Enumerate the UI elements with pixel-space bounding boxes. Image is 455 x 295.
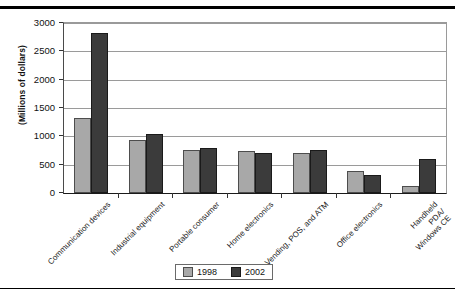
y-tick-label-0: 0 bbox=[15, 187, 55, 198]
bar-1998 bbox=[238, 151, 255, 193]
bar-1998 bbox=[293, 153, 310, 193]
bar-2002 bbox=[310, 150, 327, 193]
bar-1998 bbox=[74, 118, 91, 193]
x-tick-mark bbox=[227, 193, 228, 198]
bar-2002 bbox=[419, 159, 436, 193]
y-tick-label-2500: 2500 bbox=[15, 45, 55, 56]
bar-1998 bbox=[129, 140, 146, 193]
y-tick-label-3000: 3000 bbox=[15, 17, 55, 28]
y-tick-label-1000: 1000 bbox=[15, 130, 55, 141]
x-tick-mark bbox=[281, 193, 282, 198]
x-tick-mark bbox=[172, 193, 173, 198]
bar-group bbox=[291, 23, 329, 193]
legend-swatch-2002 bbox=[231, 267, 241, 277]
y-tick-mark-0 bbox=[59, 192, 63, 193]
bar-group bbox=[400, 23, 438, 193]
bar-group bbox=[345, 23, 383, 193]
bar-2002 bbox=[200, 148, 217, 193]
legend-label-2002: 2002 bbox=[245, 267, 265, 277]
bar-2002 bbox=[91, 33, 108, 193]
bar-2002 bbox=[255, 153, 272, 193]
y-tick-label-2000: 2000 bbox=[15, 73, 55, 84]
y-tick-mark-3000 bbox=[59, 22, 63, 23]
chart-figure: (Millions of dollars) 050010001500200025… bbox=[0, 0, 455, 295]
y-tick-mark-2500 bbox=[59, 50, 63, 51]
chart-legend: 1998 2002 bbox=[175, 264, 273, 280]
x-tick-mark bbox=[390, 193, 391, 198]
y-tick-label-500: 500 bbox=[15, 158, 55, 169]
bar-group bbox=[236, 23, 274, 193]
top-rule bbox=[0, 6, 455, 9]
bar-group bbox=[181, 23, 219, 193]
bar-2002 bbox=[146, 134, 163, 193]
legend-entry-1998: 1998 bbox=[183, 267, 217, 277]
y-tick-mark-500 bbox=[59, 164, 63, 165]
legend-entry-2002: 2002 bbox=[231, 267, 265, 277]
legend-swatch-1998 bbox=[183, 267, 193, 277]
bottom-rule bbox=[0, 288, 455, 289]
x-category-label: Handheld PDA/ Windows CE bbox=[365, 200, 453, 288]
y-tick-mark-1500 bbox=[59, 107, 63, 108]
bar-1998 bbox=[183, 150, 200, 193]
bar-2002 bbox=[364, 175, 381, 193]
x-tick-mark bbox=[336, 193, 337, 198]
bar-group bbox=[72, 23, 110, 193]
y-tick-label-1500: 1500 bbox=[15, 102, 55, 113]
bar-1998 bbox=[402, 186, 419, 193]
bar-group bbox=[127, 23, 165, 193]
bar-1998 bbox=[347, 171, 364, 193]
plot-area bbox=[63, 22, 447, 194]
y-tick-mark-1000 bbox=[59, 135, 63, 136]
legend-label-1998: 1998 bbox=[197, 267, 217, 277]
y-tick-mark-2000 bbox=[59, 79, 63, 80]
x-tick-mark bbox=[118, 193, 119, 198]
